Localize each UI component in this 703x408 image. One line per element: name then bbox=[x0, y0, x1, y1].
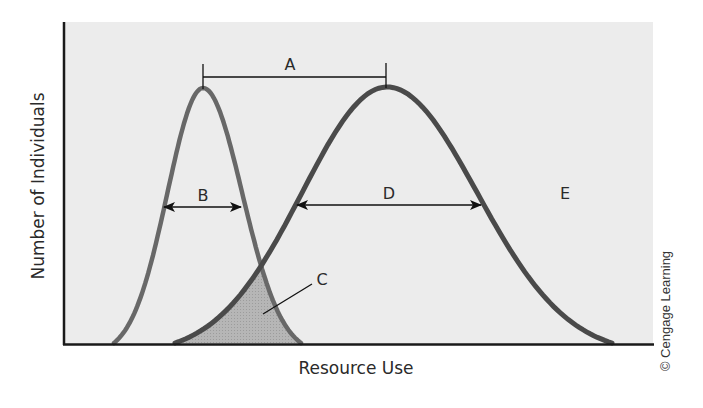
annotation-c-label: C bbox=[316, 270, 327, 289]
niche-overlap-diagram: A B D E C Resource Use Number of Individ… bbox=[0, 0, 703, 408]
y-axis-title: Number of Individuals bbox=[28, 92, 48, 279]
annotation-a-label: A bbox=[285, 55, 296, 74]
copyright-credit: © Cengage Learning bbox=[658, 251, 673, 371]
x-axis-title: Resource Use bbox=[298, 358, 413, 378]
annotation-d-label: D bbox=[383, 184, 395, 203]
annotation-e-label: E bbox=[560, 184, 570, 203]
plot-background bbox=[63, 22, 653, 344]
annotation-b-label: B bbox=[198, 186, 209, 205]
